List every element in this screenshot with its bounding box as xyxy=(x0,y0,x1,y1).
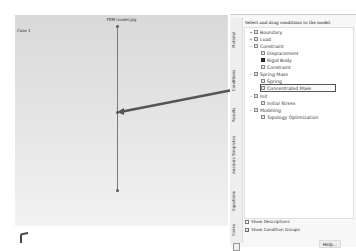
checkbox-label: Show Descriptions xyxy=(251,219,290,224)
instruction-text: Select and drag conditions to the model. xyxy=(245,20,331,25)
tab-results[interactable]: Results xyxy=(231,104,241,126)
tree-item-label: Concentrated Mass xyxy=(267,86,311,91)
tree-item-constraint-group[interactable]: − Constraint xyxy=(249,43,284,49)
conditions-panel: Material Conditions Results Analysis Tem… xyxy=(230,14,356,247)
tree-item-label: Modeling xyxy=(260,108,281,113)
checkbox-label: Show Condition Groups xyxy=(251,227,300,232)
tree-item-label: Constraint xyxy=(267,65,291,70)
collapse-toggle[interactable]: − xyxy=(249,44,253,49)
tree-item-initial-stress[interactable]: Initial Stress xyxy=(261,100,295,106)
tree-item-label: Initial Stress xyxy=(267,101,295,106)
tree-item-topology-optimization[interactable]: Topology Optimization xyxy=(261,114,318,120)
folder-icon xyxy=(254,44,258,48)
collapse-toggle[interactable]: − xyxy=(249,94,253,99)
tree-item-modeling-group[interactable]: − Modeling xyxy=(249,107,281,113)
panel-options-icon[interactable] xyxy=(233,243,240,251)
side-tab-bar: Material Conditions Results Analysis Tem… xyxy=(230,18,243,243)
collapse-toggle[interactable]: − xyxy=(249,108,253,113)
tree-item-label: Constraint xyxy=(260,44,284,49)
tab-forms[interactable]: Forms xyxy=(231,222,241,238)
tree-item-label: Topology Optimization xyxy=(267,115,318,120)
checkbox-unchecked[interactable] xyxy=(245,220,249,224)
tree-item-label: Spring Mass xyxy=(260,72,288,77)
folder-icon xyxy=(254,108,258,112)
displacement-icon xyxy=(261,51,265,55)
folder-icon xyxy=(254,94,258,98)
tab-analysis-templates[interactable]: Analysis Templates xyxy=(231,130,241,180)
tree-item-spring[interactable]: Spring xyxy=(261,78,282,84)
tab-material[interactable]: Material xyxy=(231,26,241,54)
folder-icon xyxy=(254,37,258,41)
tree-item-spring-mass-group[interactable]: − Spring Mass xyxy=(249,71,288,77)
constraint-icon xyxy=(261,65,265,69)
folder-icon xyxy=(254,72,258,76)
spring-icon xyxy=(261,79,265,83)
initial-stress-icon xyxy=(261,101,265,105)
concentrated-mass-icon xyxy=(261,86,265,90)
tree-item-label: Boundary xyxy=(260,30,282,35)
tab-conditions[interactable]: Conditions xyxy=(231,62,241,98)
tree-item-load[interactable]: + Load xyxy=(249,36,271,42)
tree-item-label: Spring xyxy=(267,79,282,84)
tree-item-boundary[interactable]: + Boundary xyxy=(249,29,282,35)
rigid-body-icon xyxy=(261,58,265,62)
expand-toggle[interactable]: + xyxy=(249,37,253,42)
tree-item-constraint[interactable]: Constraint xyxy=(261,64,291,70)
tree-item-displacement[interactable]: Displacement xyxy=(261,50,299,56)
tree-item-label: Load xyxy=(260,37,271,42)
show-descriptions-checkbox[interactable]: Show Descriptions xyxy=(245,219,290,224)
tree-item-init-group[interactable]: − Init xyxy=(249,93,267,99)
show-condition-groups-checkbox[interactable]: ✓ Show Condition Groups xyxy=(245,227,300,232)
checkbox-checked[interactable]: ✓ xyxy=(245,228,249,232)
help-button[interactable]: Help... xyxy=(319,240,341,248)
panel-header xyxy=(230,14,356,18)
tab-equations[interactable]: Equations xyxy=(231,186,241,216)
tree-item-label: Rigid Body xyxy=(267,58,292,63)
tree-item-concentrated-mass[interactable]: Concentrated Mass xyxy=(261,85,335,91)
tree-item-rigid-body[interactable]: Rigid Body xyxy=(261,57,292,63)
tree-item-label: Init xyxy=(260,94,267,99)
collapse-toggle[interactable]: − xyxy=(249,72,253,77)
topology-optimization-icon xyxy=(261,115,265,119)
conditions-tree[interactable]: + Boundary + Load − Constraint Displacem… xyxy=(244,27,354,219)
expand-toggle[interactable]: + xyxy=(249,30,253,35)
tree-item-label: Displacement xyxy=(267,51,299,56)
folder-icon xyxy=(254,30,258,34)
